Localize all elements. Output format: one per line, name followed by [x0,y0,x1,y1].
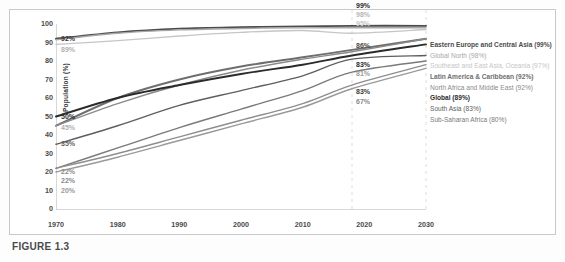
series-value-label: 83% [356,88,370,96]
y-tick-label: 70 [27,80,53,87]
figure-caption: FIGURE 1.3 [12,241,557,252]
series-lines [56,24,426,214]
legend-item: Latin America & Caribbean (92%) [430,72,565,83]
series-value-label: 95% [356,20,370,28]
series-value-label: 86% [356,42,370,50]
legend-item: Southeast and East Asia, Oceania (97%) [430,61,565,72]
series-value-label: 45% [61,124,75,132]
series-line [56,65,426,169]
series-value-label: 89% [61,46,75,54]
x-tick-label: 2010 [283,220,323,229]
plot-area: Population (%) 0102030405060708090100 19… [56,24,426,214]
series-line [56,28,426,40]
y-tick-label: 10 [27,191,53,198]
x-tick-label: 1980 [98,220,138,229]
series-line [56,30,426,45]
x-tick-label: 2020 [344,220,384,229]
legend-item: Global North (98%) [430,51,565,62]
series-value-label: 92% [61,35,75,43]
series-value-label: 35% [61,140,75,148]
y-tick-label: 40 [27,135,53,142]
y-tick-label: 90 [27,43,53,50]
x-tick-label: 1990 [159,220,199,229]
chart-legend: Eastern Europe and Central Asia (99%)Glo… [430,40,565,125]
x-tick-label: 2000 [221,220,261,229]
series-value-label: 50% [61,113,75,121]
legend-item: Sub-Saharan Africa (80%) [430,115,565,126]
series-value-label: 99% [356,2,370,10]
series-value-label: 98% [356,11,370,19]
series-line [56,61,426,168]
figure-root: Population (%) 0102030405060708090100 19… [0,0,565,262]
y-tick-label: 50 [27,117,53,124]
y-tick-label: 30 [27,154,53,161]
series-value-label: 81% [356,70,370,78]
legend-item: Global (89%) [430,93,565,104]
y-tick-label: 0 [27,209,53,216]
y-tick-label: 80 [27,61,53,68]
legend-item: Eastern Europe and Central Asia (99%) [430,40,565,51]
x-tick-label: 2030 [406,220,446,229]
series-value-label: 83% [356,61,370,69]
series-value-label: 67% [356,98,370,106]
y-tick-label: 20 [27,172,53,179]
series-value-label: 20% [61,187,75,195]
series-value-label: 22% [61,168,75,176]
y-tick-label: 60 [27,98,53,105]
figure-caption-label: FIGURE 1.3 [12,241,69,252]
chart-panel: Population (%) 0102030405060708090100 19… [9,9,556,235]
legend-item: North Africa and Middle East (92%) [430,83,565,94]
series-value-label: 22% [61,177,75,185]
x-tick-label: 1970 [36,220,76,229]
y-tick-label: 100 [27,24,53,31]
legend-item: South Asia (83%) [430,104,565,115]
